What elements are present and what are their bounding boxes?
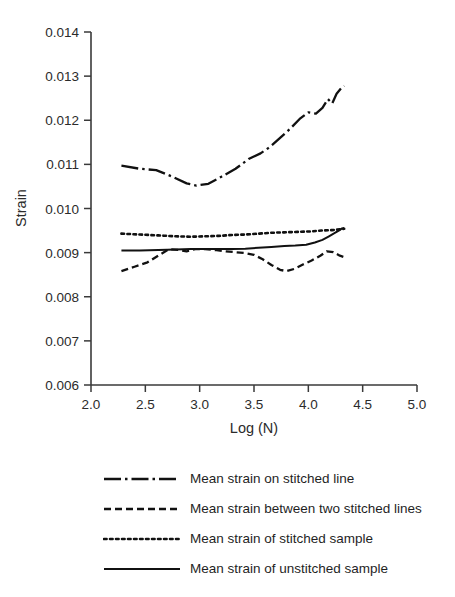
- x-axis-ticks: 2.02.53.03.54.04.55.0: [82, 385, 427, 412]
- figure: 0.0060.0070.0080.0090.0100.0110.0120.013…: [0, 0, 455, 597]
- y-tick-label: 0.013: [45, 69, 79, 84]
- legend-item-label: Mean strain of unstitched sample: [190, 562, 388, 576]
- legend-item-label: Mean strain on stitched line: [190, 472, 354, 486]
- legend-swatch-dashed: [103, 502, 181, 516]
- chart-series-line: [121, 229, 344, 237]
- y-tick-label: 0.014: [45, 25, 79, 40]
- y-tick-label: 0.008: [45, 290, 79, 305]
- legend-item-label: Mean strain between two stitched lines: [190, 502, 422, 516]
- chart-svg: 0.0060.0070.0080.0090.0100.0110.0120.013…: [0, 0, 455, 455]
- y-axis-title: Strain: [13, 189, 29, 227]
- legend-item: Mean strain between two stitched lines: [103, 494, 422, 524]
- legend-swatch-dotted: [103, 532, 181, 546]
- x-tick-label: 4.5: [353, 397, 372, 412]
- legend-item: Mean strain of unstitched sample: [103, 554, 388, 584]
- legend-item: Mean strain on stitched line: [103, 464, 354, 494]
- x-tick-label: 4.0: [299, 397, 318, 412]
- y-axis-ticks: 0.0060.0070.0080.0090.0100.0110.0120.013…: [45, 25, 91, 393]
- y-tick-label: 0.011: [46, 157, 79, 172]
- x-tick-label: 3.5: [245, 397, 264, 412]
- chart-legend: Mean strain on stitched line Mean strain…: [0, 458, 455, 597]
- x-axis-title: Log (N): [230, 420, 278, 436]
- y-tick-label: 0.010: [45, 202, 79, 217]
- legend-item: Mean strain of stitched sample: [103, 524, 373, 554]
- chart-series-line: [121, 249, 344, 271]
- x-tick-label: 2.5: [136, 397, 155, 412]
- y-tick-label: 0.009: [45, 246, 79, 261]
- chart-plot-area: 0.0060.0070.0080.0090.0100.0110.0120.013…: [0, 0, 455, 455]
- legend-item-label: Mean strain of stitched sample: [190, 532, 373, 546]
- chart-series-line: [121, 86, 344, 186]
- legend-swatch-dash-dot: [103, 472, 181, 486]
- x-tick-label: 5.0: [408, 397, 427, 412]
- y-tick-label: 0.006: [45, 378, 79, 393]
- x-tick-label: 2.0: [82, 397, 101, 412]
- x-tick-label: 3.0: [190, 397, 209, 412]
- y-tick-label: 0.012: [45, 113, 79, 128]
- chart-series-group: [121, 86, 344, 271]
- y-tick-label: 0.007: [45, 334, 79, 349]
- legend-swatch-solid: [103, 562, 181, 576]
